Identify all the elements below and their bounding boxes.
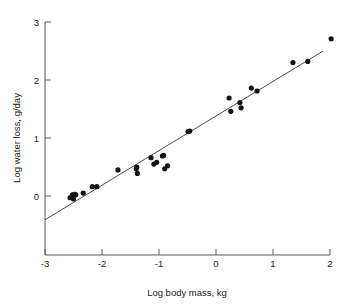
data-point	[148, 155, 153, 160]
x-tick-label: 1	[270, 258, 275, 269]
data-point	[135, 171, 140, 176]
y-axis-ticks	[45, 22, 51, 196]
data-point	[238, 105, 243, 110]
x-tick-label: 2	[327, 258, 332, 269]
y-axis-title: Log water loss, g/day	[11, 93, 22, 183]
data-point	[237, 100, 242, 105]
data-point	[134, 164, 139, 169]
x-tick-label: -1	[155, 258, 163, 269]
data-point	[187, 128, 192, 133]
y-tick-label: 3	[34, 17, 39, 28]
regression-line	[45, 51, 323, 220]
data-point	[73, 192, 78, 197]
x-axis-tick-labels: -3-2-1012	[41, 258, 333, 269]
data-point	[161, 153, 166, 158]
x-tick-label: 0	[213, 258, 218, 269]
data-point	[165, 163, 170, 168]
x-tick-label: -3	[41, 258, 49, 269]
y-axis: 0123	[34, 17, 51, 256]
data-point	[115, 167, 120, 172]
data-point	[329, 36, 334, 41]
y-tick-label: 1	[34, 133, 39, 144]
data-point	[290, 60, 295, 65]
y-tick-label: 2	[34, 75, 39, 86]
data-point	[90, 184, 95, 189]
data-point	[305, 59, 310, 64]
data-point	[154, 160, 159, 165]
x-axis: -3-2-1012	[41, 249, 333, 269]
data-point	[227, 95, 232, 100]
data-point	[249, 86, 254, 91]
plot-canvas: 0123 -3-2-1012 Log body mass, kg Log wat…	[0, 0, 350, 308]
data-point	[228, 109, 233, 114]
scatter-plot-figure: 0123 -3-2-1012 Log body mass, kg Log wat…	[0, 0, 350, 308]
x-tick-label: -2	[98, 258, 106, 269]
y-axis-tick-labels: 0123	[34, 17, 39, 202]
x-axis-ticks	[45, 249, 330, 255]
x-axis-title: Log body mass, kg	[147, 287, 227, 298]
data-point	[254, 88, 259, 93]
y-tick-label: 0	[34, 191, 39, 202]
data-points	[67, 36, 333, 201]
data-point	[81, 191, 86, 196]
data-point	[94, 184, 99, 189]
